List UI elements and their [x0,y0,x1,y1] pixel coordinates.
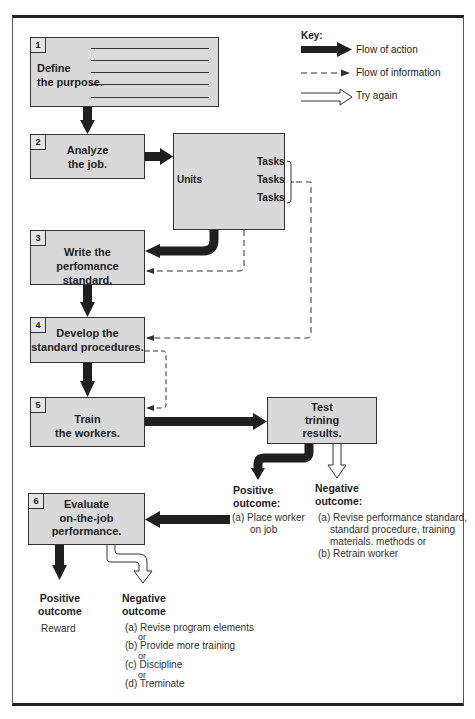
key-title: Key: [301,30,323,41]
step-6-text: Evaluate on-the-job performance. [29,498,144,539]
ruled-line [91,97,209,98]
arrow-4-to-5 [80,363,95,397]
tasks-bracket [287,161,294,203]
tasks-label-2: Tasks [257,174,285,185]
key-label-try-again: Try again [356,90,397,101]
arrow-6-positive [52,545,67,580]
arrow-test-negative [328,444,346,478]
step-6-box: 6 Evaluate on-the-job performance. [28,493,145,545]
step-5-number: 5 [31,398,46,413]
key-hollow-arrow-icon [301,89,352,105]
tasks-label-3: Tasks [257,192,285,203]
arrow-5-to-test [145,413,267,430]
step-4-text: Develop the standard procedures. [31,326,144,354]
units-label: Units [177,174,202,185]
eval-negative-item-c: (c) Discipline [125,659,182,672]
arrow-place-worker-to-6 [145,511,230,528]
eval-positive-heading: Positive outcome [38,592,82,618]
step-3-text: Write the perfomance standard. [31,245,144,287]
arrow-units-to-3 [145,229,214,258]
key-label-flow-of-information: Flow of information [356,67,440,78]
test-negative-item-a-line2: standard procedure, training [330,524,455,537]
test-positive-item-a-cont: on job [250,524,277,537]
step-1-number: 1 [31,38,46,53]
step-2-box: 2 Analyze the job. [30,134,145,179]
step-3-box: 3 Write the perfomance standard. [30,230,145,285]
test-negative-item-a: (a) Revise performance standard, [318,512,467,525]
info-4-to-5 [145,351,166,408]
ruled-line [91,48,209,49]
step-3-number: 3 [31,231,46,246]
key-solid-arrow-icon [301,42,352,57]
eval-positive-reward: Reward [41,623,75,636]
ruled-line [91,84,209,85]
tasks-label-1: Tasks [257,156,285,167]
test-negative-item-b: (b) Retrain worker [318,548,398,561]
test-negative-item-a-line3: materials. methods or [330,536,426,549]
ruled-line [91,72,209,73]
test-positive-item-a: (a) Place worker [232,512,305,525]
step-1-box: 1 Define the purpose. [30,37,219,107]
test-training-results-box: Test trining results. [267,397,377,444]
eval-negative-heading: Negative outcome [122,592,166,618]
arrow-2-to-units [145,148,173,165]
arrow-test-positive [251,444,309,480]
step-5-box: 5 Train the workers. [30,397,145,447]
step-5-text: Train the workers. [31,412,144,440]
test-positive-heading: Positive outcome: [233,484,280,510]
arrow-3-to-4 [80,285,95,317]
step-2-text: Analyze the job. [31,143,144,171]
arrow-1-to-2 [80,107,95,134]
key-label-flow-of-action: Flow of action [356,44,418,55]
eval-negative-item-d: (d) Treminate [125,678,184,691]
ruled-line [91,60,209,61]
arrow-6-negative [107,545,152,583]
test-negative-heading: Negative outcome: [315,482,362,508]
test-box-text: Test trining results. [268,401,376,440]
step-4-box: 4 Develop the standard procedures. [30,317,145,363]
